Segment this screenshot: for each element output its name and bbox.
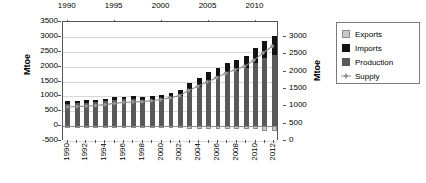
left-axis-tick-label: 1000 xyxy=(40,91,58,99)
supply-marker xyxy=(75,104,79,108)
bottom-axis-year-label: 1996 xyxy=(119,143,127,161)
bottom-axis-year-label: 2004 xyxy=(194,143,202,161)
left-axis-tick xyxy=(58,95,61,96)
right-axis-tick xyxy=(283,53,286,54)
right-axis-tick xyxy=(283,71,286,72)
bottom-axis-year-label: 2002 xyxy=(175,143,183,161)
left-axis-tick xyxy=(58,51,61,52)
bottom-axis-tick xyxy=(114,140,115,143)
left-axis-tick xyxy=(58,36,61,37)
right-axis-tick-label: 1000 xyxy=(289,101,307,109)
legend-label: Imports xyxy=(355,44,382,53)
left-axis-tick xyxy=(58,66,61,67)
supply-marker xyxy=(177,94,181,98)
supply-marker xyxy=(205,80,209,84)
bottom-axis-tick xyxy=(76,140,77,143)
supply-marker xyxy=(149,99,153,103)
bottom-axis-year-label: 1994 xyxy=(100,143,108,161)
legend-item-exports: Exports xyxy=(342,27,419,41)
right-axis-tick xyxy=(283,36,286,37)
top-axis-year-label: 2000 xyxy=(152,2,170,10)
top-axis-year-label: 1995 xyxy=(105,2,123,10)
supply-marker xyxy=(187,88,191,92)
left-axis-tick-label: -500 xyxy=(42,136,58,144)
bottom-axis-tick xyxy=(95,140,96,143)
supply-marker xyxy=(214,76,218,80)
right-axis-tick xyxy=(283,123,286,124)
supply-marker xyxy=(159,98,163,102)
left-axis-tick-label: 3000 xyxy=(40,32,58,40)
legend-item-imports: Imports xyxy=(342,41,419,55)
plot-area xyxy=(62,21,278,140)
left-axis-tick-label: 500 xyxy=(45,106,58,114)
bottom-axis-tick xyxy=(208,140,209,143)
legend-item-supply: Supply xyxy=(342,69,419,83)
supply-marker xyxy=(121,100,125,104)
bottom-axis-tick xyxy=(151,140,152,143)
bottom-axis-tick xyxy=(264,140,265,143)
supply-marker xyxy=(112,101,116,105)
left-axis-tick xyxy=(58,81,61,82)
supply-line-series xyxy=(63,22,277,140)
bottom-axis-tick xyxy=(132,140,133,143)
legend-swatch-exports-icon xyxy=(342,30,350,38)
left-axis-tick-label: 3500 xyxy=(40,17,58,25)
right-axis-tick-label: 0 xyxy=(289,136,293,144)
bottom-axis-year-label: 2006 xyxy=(213,143,221,161)
left-axis-tick-label: 2000 xyxy=(40,62,58,70)
bottom-axis-year-label: 2010 xyxy=(251,143,259,161)
bottom-axis-year-label: 2000 xyxy=(157,143,165,161)
bottom-axis-year-label: 2008 xyxy=(232,143,240,161)
top-axis-year-label: 2010 xyxy=(246,2,264,10)
supply-marker xyxy=(233,68,237,72)
legend-swatch-imports-icon xyxy=(342,44,350,52)
left-axis-tick xyxy=(58,140,61,141)
supply-marker xyxy=(93,103,97,107)
legend-label: Exports xyxy=(355,30,382,39)
right-axis-tick xyxy=(283,88,286,89)
supply-marker xyxy=(84,104,88,108)
bottom-axis-tick xyxy=(170,140,171,143)
right-axis-ticks: 300025002000150010005000 xyxy=(282,21,316,140)
legend-swatch-supply-icon xyxy=(342,72,350,80)
bottom-axis-tick xyxy=(189,140,190,143)
left-axis-tick xyxy=(58,110,61,111)
legend-label: Production xyxy=(355,58,393,67)
right-axis-tick-label: 500 xyxy=(289,119,302,127)
legend-swatch-production-icon xyxy=(342,58,350,66)
bottom-axis-year-label: 1990 xyxy=(63,143,71,161)
bottom-axis-tick xyxy=(226,140,227,143)
supply-marker xyxy=(168,96,172,100)
left-axis-tick xyxy=(58,125,61,126)
left-axis-tick-label: 2500 xyxy=(40,47,58,55)
right-axis-tick-label: 3000 xyxy=(289,32,307,40)
bottom-axis-year-label: 1992 xyxy=(81,143,89,161)
top-axis-year-label: 2005 xyxy=(199,2,217,10)
bottom-axis-year-label: 1998 xyxy=(138,143,146,161)
bottom-axis-year-label: 2012 xyxy=(269,143,277,161)
bottom-axis-tick xyxy=(245,140,246,143)
right-axis-tick-label: 1500 xyxy=(289,84,307,92)
supply-marker xyxy=(140,100,144,104)
supply-marker xyxy=(66,105,70,109)
legend-label: Supply xyxy=(355,72,379,81)
top-axis-year-label: 1990 xyxy=(58,2,76,10)
supply-marker xyxy=(131,100,135,104)
left-axis-ticks: 3500300025002000150010005000-500 xyxy=(24,21,58,140)
chart-legend: ExportsImportsProductionSupply xyxy=(336,22,420,84)
supply-marker xyxy=(103,103,107,107)
supply-marker xyxy=(224,71,228,75)
right-axis-tick xyxy=(283,105,286,106)
right-axis-tick-label: 2500 xyxy=(289,49,307,57)
left-axis-tick-label: 1500 xyxy=(40,77,58,85)
right-axis-tick xyxy=(283,140,286,141)
supply-marker xyxy=(196,84,200,88)
right-axis-tick-label: 2000 xyxy=(289,67,307,75)
chart-root: 19901995200020052010 Mtoe Mtoe 350030002… xyxy=(0,0,426,183)
legend-item-production: Production xyxy=(342,55,419,69)
left-axis-tick xyxy=(58,21,61,22)
